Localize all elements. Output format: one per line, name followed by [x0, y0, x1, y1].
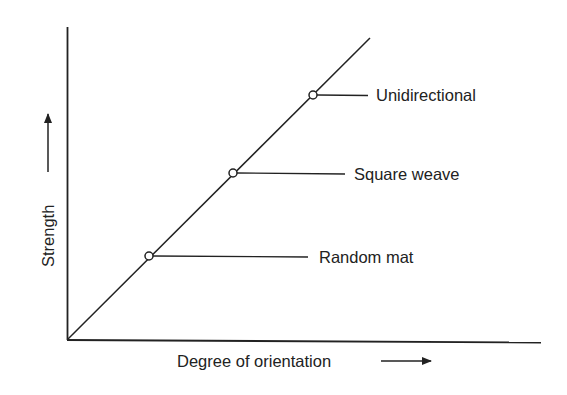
- strength-orientation-diagram: Unidirectional Square weave Random mat D…: [0, 0, 567, 395]
- point-square-weave: Square weave: [229, 165, 460, 183]
- point-marker-icon: [229, 169, 237, 177]
- point-marker-icon: [309, 91, 317, 99]
- leader-line: [317, 95, 368, 96]
- point-unidirectional: Unidirectional: [309, 86, 476, 104]
- x-axis-label: Degree of orientation: [177, 352, 331, 370]
- label-unidirectional: Unidirectional: [376, 86, 476, 104]
- y-axis-label: Strength: [39, 205, 57, 267]
- label-random-mat: Random mat: [319, 248, 414, 266]
- point-marker-icon: [145, 252, 153, 260]
- leader-line: [153, 256, 308, 257]
- leader-line: [237, 173, 345, 174]
- label-square-weave: Square weave: [354, 165, 460, 183]
- x-axis: [67, 340, 541, 343]
- point-random-mat: Random mat: [145, 248, 414, 266]
- strength-line: [68, 38, 370, 339]
